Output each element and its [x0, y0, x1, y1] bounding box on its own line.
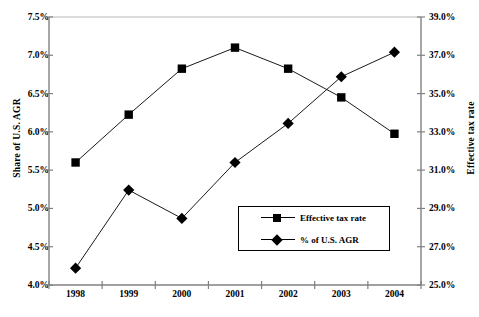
- legend-item-share-of-us-agr: % of U.S. AGR: [239, 229, 389, 251]
- square-marker-icon: [261, 212, 295, 224]
- diamond-marker-icon: [261, 234, 295, 246]
- legend-item-effective-tax-rate: Effective tax rate: [239, 207, 389, 229]
- legend-item-label: % of U.S. AGR: [295, 235, 359, 245]
- chart-legend: Effective tax rate % of U.S. AGR: [238, 206, 390, 251]
- legend-item-label: Effective tax rate: [295, 213, 366, 223]
